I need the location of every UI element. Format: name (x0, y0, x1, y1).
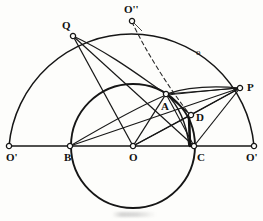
label-b: B (64, 152, 71, 163)
label-d: D (196, 112, 204, 123)
point-marker-d (188, 112, 193, 117)
point-marker-o-prime-right (251, 143, 256, 148)
point-marker-o (130, 143, 135, 148)
point-marker-q (70, 33, 75, 38)
label-o-prime-right: O' (246, 152, 258, 163)
point-marker-b (67, 143, 72, 148)
geometry-figure: O' B O C O' Q O'' P A D o (0, 0, 263, 221)
label-arc-o: o (196, 48, 201, 57)
label-a: A (161, 101, 169, 112)
point-marker-a (163, 91, 168, 96)
caption-smudge (112, 212, 156, 217)
segment-d-c-thick (189, 116, 190, 146)
label-o-prime-left: O' (6, 152, 18, 163)
label-o-double-prime: O'' (124, 4, 139, 15)
point-marker-p (237, 85, 242, 90)
label-c: C (197, 152, 205, 163)
label-p: P (247, 82, 254, 93)
label-o: O (129, 152, 138, 163)
arc-q-to-p (73, 36, 240, 94)
label-q: Q (62, 20, 71, 31)
point-marker-o-prime-left (6, 143, 11, 148)
geometry-diagram-canvas (0, 0, 263, 221)
point-marker-o-double (129, 18, 134, 23)
point-marker-c (191, 143, 196, 148)
